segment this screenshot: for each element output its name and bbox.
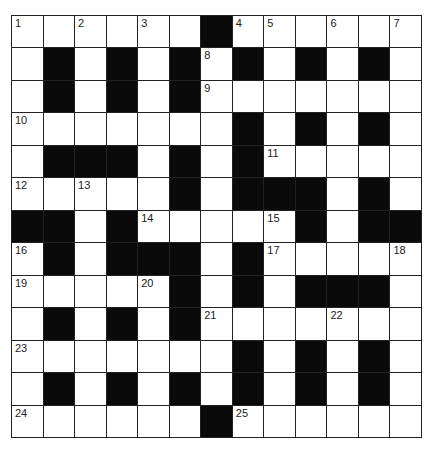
answer-square[interactable] — [75, 243, 106, 274]
answer-square[interactable] — [296, 243, 327, 274]
answer-square[interactable] — [170, 341, 201, 372]
answer-square[interactable] — [359, 406, 390, 437]
answer-square[interactable] — [264, 48, 295, 79]
answer-square[interactable] — [264, 308, 295, 339]
answer-square[interactable]: 3 — [138, 16, 169, 47]
answer-square[interactable] — [107, 406, 138, 437]
answer-square[interactable] — [296, 16, 327, 47]
answer-square[interactable] — [75, 341, 106, 372]
answer-square[interactable] — [201, 113, 232, 144]
answer-square[interactable] — [390, 178, 421, 209]
answer-square[interactable] — [264, 373, 295, 404]
answer-square[interactable] — [75, 48, 106, 79]
answer-square[interactable] — [296, 406, 327, 437]
answer-square[interactable]: 22 — [327, 308, 358, 339]
answer-square[interactable] — [107, 113, 138, 144]
answer-square[interactable] — [107, 341, 138, 372]
answer-square[interactable] — [296, 308, 327, 339]
answer-square[interactable]: 12 — [12, 178, 43, 209]
answer-square[interactable] — [390, 48, 421, 79]
answer-square[interactable] — [44, 178, 75, 209]
answer-square[interactable] — [296, 81, 327, 112]
answer-square[interactable]: 7 — [390, 16, 421, 47]
answer-square[interactable] — [390, 308, 421, 339]
answer-square[interactable]: 14 — [138, 211, 169, 242]
answer-square[interactable] — [327, 243, 358, 274]
answer-square[interactable] — [201, 178, 232, 209]
answer-square[interactable]: 6 — [327, 16, 358, 47]
answer-square[interactable] — [264, 113, 295, 144]
answer-square[interactable] — [201, 146, 232, 177]
answer-square[interactable] — [390, 113, 421, 144]
answer-square[interactable] — [327, 178, 358, 209]
answer-square[interactable] — [390, 146, 421, 177]
answer-square[interactable] — [264, 341, 295, 372]
answer-square[interactable] — [390, 373, 421, 404]
answer-square[interactable] — [107, 276, 138, 307]
answer-square[interactable] — [138, 406, 169, 437]
answer-square[interactable]: 2 — [75, 16, 106, 47]
answer-square[interactable] — [138, 373, 169, 404]
answer-square[interactable] — [12, 146, 43, 177]
answer-square[interactable] — [138, 113, 169, 144]
answer-square[interactable]: 24 — [12, 406, 43, 437]
answer-square[interactable] — [327, 81, 358, 112]
answer-square[interactable]: 9 — [201, 81, 232, 112]
answer-square[interactable] — [44, 341, 75, 372]
answer-square[interactable] — [12, 308, 43, 339]
answer-square[interactable] — [170, 406, 201, 437]
answer-square[interactable] — [327, 211, 358, 242]
answer-square[interactable] — [138, 81, 169, 112]
answer-square[interactable] — [138, 146, 169, 177]
answer-square[interactable]: 20 — [138, 276, 169, 307]
answer-square[interactable] — [264, 81, 295, 112]
answer-square[interactable] — [75, 308, 106, 339]
answer-square[interactable] — [264, 276, 295, 307]
answer-square[interactable] — [75, 276, 106, 307]
answer-square[interactable] — [233, 211, 264, 242]
answer-square[interactable] — [201, 276, 232, 307]
answer-square[interactable]: 13 — [75, 178, 106, 209]
answer-square[interactable] — [12, 48, 43, 79]
answer-square[interactable] — [75, 81, 106, 112]
answer-square[interactable] — [327, 406, 358, 437]
answer-square[interactable] — [75, 373, 106, 404]
answer-square[interactable] — [44, 16, 75, 47]
answer-square[interactable] — [327, 48, 358, 79]
answer-square[interactable] — [264, 406, 295, 437]
answer-square[interactable]: 8 — [201, 48, 232, 79]
answer-square[interactable] — [201, 243, 232, 274]
answer-square[interactable] — [359, 308, 390, 339]
answer-square[interactable] — [75, 113, 106, 144]
answer-square[interactable]: 4 — [233, 16, 264, 47]
answer-square[interactable] — [201, 341, 232, 372]
answer-square[interactable]: 15 — [264, 211, 295, 242]
answer-square[interactable]: 1 — [12, 16, 43, 47]
answer-square[interactable] — [233, 308, 264, 339]
answer-square[interactable]: 10 — [12, 113, 43, 144]
answer-square[interactable] — [44, 113, 75, 144]
answer-square[interactable] — [201, 211, 232, 242]
answer-square[interactable]: 25 — [233, 406, 264, 437]
answer-square[interactable]: 5 — [264, 16, 295, 47]
answer-square[interactable]: 21 — [201, 308, 232, 339]
answer-square[interactable] — [359, 16, 390, 47]
answer-square[interactable] — [327, 341, 358, 372]
answer-square[interactable] — [107, 178, 138, 209]
answer-square[interactable] — [359, 146, 390, 177]
answer-square[interactable] — [75, 406, 106, 437]
answer-square[interactable] — [170, 211, 201, 242]
answer-square[interactable]: 11 — [264, 146, 295, 177]
answer-square[interactable] — [12, 373, 43, 404]
answer-square[interactable] — [327, 373, 358, 404]
answer-square[interactable] — [201, 373, 232, 404]
answer-square[interactable] — [138, 178, 169, 209]
answer-square[interactable] — [390, 406, 421, 437]
answer-square[interactable] — [390, 341, 421, 372]
answer-square[interactable] — [327, 146, 358, 177]
answer-square[interactable] — [75, 211, 106, 242]
answer-square[interactable] — [170, 113, 201, 144]
answer-square[interactable] — [138, 48, 169, 79]
answer-square[interactable]: 18 — [390, 243, 421, 274]
answer-square[interactable] — [296, 146, 327, 177]
